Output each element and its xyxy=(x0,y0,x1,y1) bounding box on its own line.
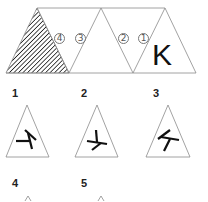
option-2-label[interactable]: 2 xyxy=(81,88,87,99)
face-letter-k: K xyxy=(152,40,172,70)
face-label-1: 1 xyxy=(138,33,149,44)
face-label-4: 4 xyxy=(54,33,65,44)
option-3-glyph xyxy=(158,130,179,151)
option-4-label[interactable]: 4 xyxy=(12,178,18,189)
option-1-label[interactable]: 1 xyxy=(12,88,18,99)
option-2-glyph xyxy=(87,130,107,150)
face-label-2: 2 xyxy=(118,33,129,44)
option-5-label[interactable]: 5 xyxy=(81,178,87,189)
option-3-label[interactable]: 3 xyxy=(153,88,159,99)
option-4-triangle xyxy=(25,196,31,201)
option-5-triangle xyxy=(98,196,104,201)
net-diagram xyxy=(0,0,208,202)
option-1-glyph xyxy=(16,130,36,149)
face-label-3: 3 xyxy=(75,33,86,44)
option-triangles xyxy=(6,105,190,201)
